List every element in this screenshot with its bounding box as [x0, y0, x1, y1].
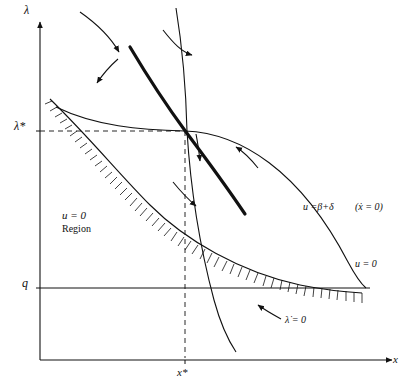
curve-label-xdot-zero: (ẋ = 0) — [355, 201, 383, 212]
y-tick-lambda-star: λ* — [14, 120, 25, 133]
x-axis-label: x — [393, 353, 398, 365]
curve-xdot-zero — [56, 107, 366, 288]
curve-label-lambda-dot-zero: λ̇ = 0 — [285, 314, 306, 325]
curve-lambda-dot-zero — [50, 99, 362, 293]
curve-label-u-zero: u = 0 — [355, 258, 377, 269]
region-label-line2: Region — [62, 223, 91, 234]
curve-label-u-beta-delta: u =β+δ — [303, 201, 334, 212]
region-label-line1: u = 0 — [62, 209, 86, 221]
y-tick-q: q — [22, 277, 28, 290]
phase-diagram-figure: λ x λ* q x* u = 0 Region u =β+δ (ẋ = 0)… — [0, 0, 406, 385]
y-axis-label: λ — [24, 4, 29, 17]
diagram-canvas — [0, 0, 406, 385]
direction-arrows — [80, 12, 281, 319]
x-tick-x-star: x* — [177, 366, 187, 378]
axis-ticks — [36, 131, 185, 364]
axes — [40, 22, 392, 360]
